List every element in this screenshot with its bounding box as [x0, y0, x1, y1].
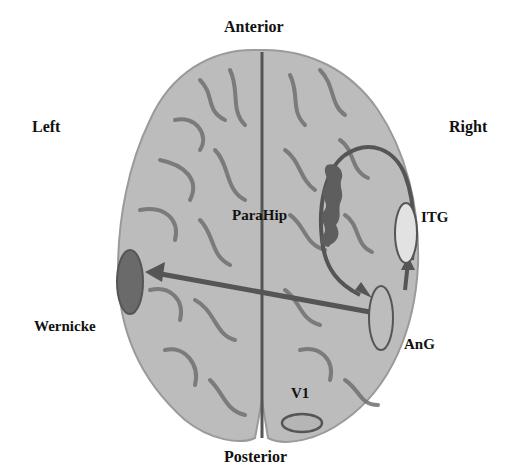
label-itg: ITG: [421, 209, 449, 226]
v1-region: [282, 414, 322, 432]
brain-hemispheres: [118, 50, 418, 468]
label-ang: AnG: [404, 336, 435, 353]
label-left: Left: [32, 118, 60, 136]
label-right: Right: [449, 118, 487, 136]
itg-region: [395, 203, 417, 263]
label-anterior: Anterior: [224, 18, 284, 36]
label-posterior: Posterior: [224, 448, 287, 466]
label-parahip: ParaHip: [232, 207, 287, 224]
wernicke-region: [117, 250, 143, 314]
brain-diagram: [0, 0, 519, 468]
ang-region: [369, 286, 393, 350]
label-wernicke: Wernicke: [34, 318, 96, 335]
label-v1: V1: [291, 385, 309, 402]
